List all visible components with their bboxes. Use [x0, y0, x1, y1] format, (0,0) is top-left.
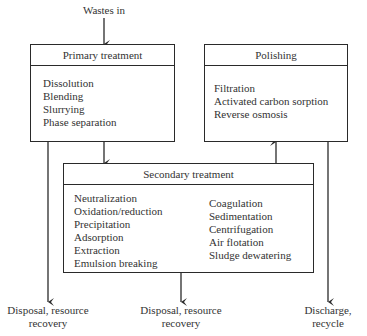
list-item: Neutralization — [74, 192, 163, 205]
wastes-in-label: Wastes in — [74, 4, 134, 17]
list-item: Emulsion breaking — [74, 257, 163, 270]
secondary-treatment-title: Secondary treatment — [64, 164, 313, 185]
output-right-label: Discharge, recycle — [300, 304, 356, 330]
list-item: Phase separation — [43, 116, 117, 129]
secondary-treatment-box: Secondary treatment Neutralization Oxida… — [63, 163, 314, 273]
list-item: Filtration — [214, 82, 328, 95]
primary-treatment-box: Primary treatment Dissolution Blending S… — [30, 44, 175, 142]
secondary-treatment-list-right: Coagulation Sedimentation Centrifugation… — [209, 197, 291, 262]
list-item: Air flotation — [209, 236, 291, 249]
list-item: Slurrying — [43, 103, 117, 116]
output-left-label: Disposal, resource recovery — [0, 304, 96, 330]
primary-treatment-title: Primary treatment — [31, 45, 174, 66]
list-item: Precipitation — [74, 218, 163, 231]
list-item: Dissolution — [43, 77, 117, 90]
list-item: Centrifugation — [209, 223, 291, 236]
polishing-title: Polishing — [205, 45, 347, 66]
list-item: Reverse osmosis — [214, 108, 328, 121]
list-item: Sludge dewatering — [209, 249, 291, 262]
list-item: Coagulation — [209, 197, 291, 210]
primary-treatment-list: Dissolution Blending Slurrying Phase sep… — [43, 77, 117, 129]
list-item: Adsorption — [74, 231, 163, 244]
list-item: Blending — [43, 90, 117, 103]
list-item: Oxidation/reduction — [74, 205, 163, 218]
polishing-list: Filtration Activated carbon sorption Rev… — [214, 82, 328, 121]
list-item: Extraction — [74, 244, 163, 257]
list-item: Activated carbon sorption — [214, 95, 328, 108]
polishing-box: Polishing Filtration Activated carbon so… — [204, 44, 348, 142]
secondary-treatment-list-left: Neutralization Oxidation/reduction Preci… — [74, 192, 163, 270]
list-item: Sedimentation — [209, 210, 291, 223]
output-center-label: Disposal, resource recovery — [133, 304, 229, 330]
